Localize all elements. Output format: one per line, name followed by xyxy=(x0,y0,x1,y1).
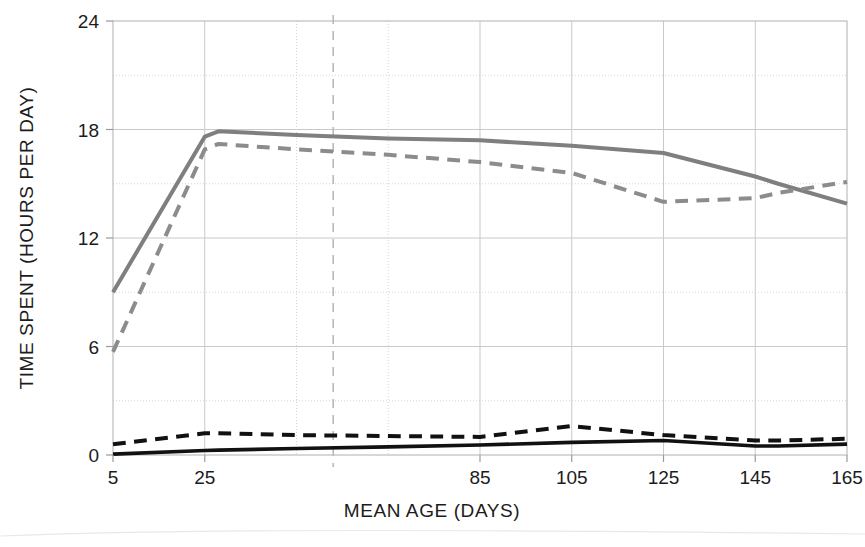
x-tick-label-165: 165 xyxy=(831,467,863,488)
y-tick-label-6: 6 xyxy=(88,337,99,358)
figure-background xyxy=(0,0,865,547)
y-tick-label-18: 18 xyxy=(78,120,99,141)
line-chart-figure: 06121824 52585105125145165 MEAN AGE (DAY… xyxy=(0,0,865,547)
y-tick-label-12: 12 xyxy=(78,228,99,249)
y-tick-label-0: 0 xyxy=(88,445,99,466)
x-axis-title: MEAN AGE (DAYS) xyxy=(344,500,521,521)
x-tick-label-105: 105 xyxy=(556,467,588,488)
x-tick-label-145: 145 xyxy=(739,467,771,488)
y-axis-title: TIME SPENT (HOURS PER DAY) xyxy=(16,86,37,389)
x-tick-label-125: 125 xyxy=(648,467,680,488)
chart-container: 06121824 52585105125145165 MEAN AGE (DAY… xyxy=(0,0,865,547)
x-tick-label-85: 85 xyxy=(469,467,490,488)
y-tick-label-24: 24 xyxy=(78,11,100,32)
x-tick-label-5: 5 xyxy=(108,467,119,488)
x-tick-label-25: 25 xyxy=(194,467,215,488)
